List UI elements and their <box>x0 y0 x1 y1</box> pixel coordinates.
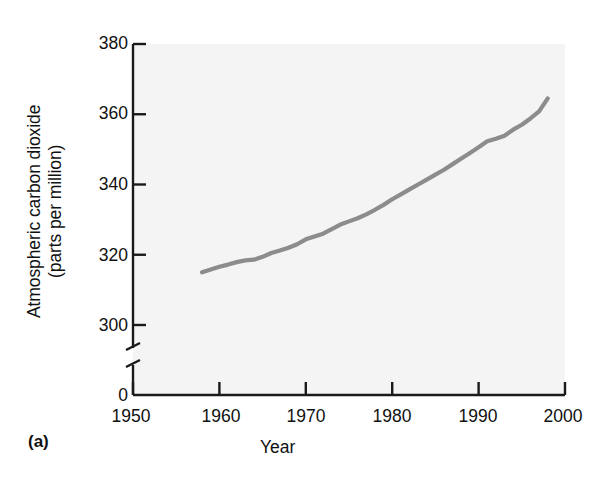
plot-area <box>0 0 616 482</box>
figure-panel-a: Atmospheric carbon dioxide (parts per mi… <box>0 0 616 482</box>
